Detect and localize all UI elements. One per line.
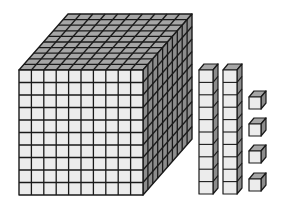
tens-rods bbox=[199, 64, 242, 194]
unit-cube bbox=[249, 145, 266, 163]
unit-cube bbox=[249, 118, 266, 136]
thousands-cube bbox=[19, 14, 192, 195]
unit-cubes bbox=[249, 91, 266, 191]
tens-rod bbox=[199, 64, 218, 194]
base-ten-blocks-diagram: Base-ten blocks One thousands cube, two … bbox=[0, 0, 284, 204]
unit-cube bbox=[249, 173, 266, 191]
tens-rod bbox=[223, 64, 242, 194]
unit-cube bbox=[249, 91, 266, 109]
